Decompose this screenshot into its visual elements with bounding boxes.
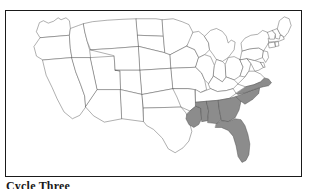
state-new-york[interactable] xyxy=(241,30,271,50)
state-washington[interactable] xyxy=(36,18,70,38)
state-florida-shaded[interactable] xyxy=(215,119,249,163)
state-texas[interactable] xyxy=(144,107,192,153)
map-frame xyxy=(5,10,302,177)
us-states-map[interactable] xyxy=(6,11,301,176)
state-connecticut[interactable] xyxy=(269,42,276,48)
state-north-dakota[interactable] xyxy=(136,19,163,36)
state-new-mexico[interactable] xyxy=(121,90,144,122)
state-oregon[interactable] xyxy=(34,35,72,60)
state-rhode-island[interactable] xyxy=(275,42,278,47)
state-georgia-shaded[interactable] xyxy=(218,96,241,121)
map-figure: Cycle Three xyxy=(0,0,314,189)
map-states-unshaded xyxy=(34,17,291,153)
figure-caption: Cycle Three xyxy=(6,180,70,189)
state-new-jersey[interactable] xyxy=(263,51,269,63)
state-montana[interactable] xyxy=(84,19,139,50)
